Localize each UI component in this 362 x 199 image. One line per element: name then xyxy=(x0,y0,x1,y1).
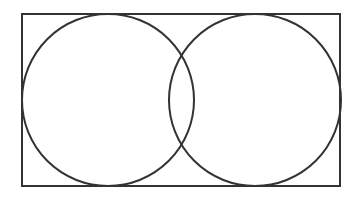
universe-rectangle xyxy=(22,14,340,186)
venn-diagram xyxy=(0,0,362,199)
